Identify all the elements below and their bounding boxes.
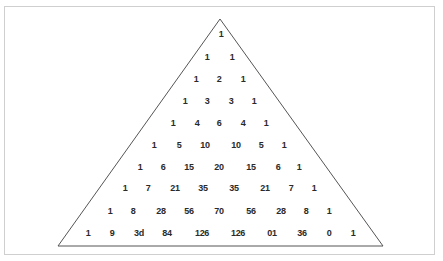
cell-r6-c0: 1 [138,162,143,172]
cell-r5-c3: 10 [231,140,240,150]
cell-r9-c0: 1 [86,228,91,238]
cell-r4-c3: 4 [241,118,246,128]
cell-r8-c2: 28 [156,206,165,216]
cell-r3-c1: 3 [205,96,210,106]
cell-r4-c4: 1 [264,118,269,128]
cell-r7-c2: 21 [170,183,179,193]
cell-r9-c9: 1 [351,228,356,238]
cell-r4-c1: 4 [195,118,200,128]
cell-r7-c4: 35 [229,183,238,193]
cell-r7-c1: 7 [146,183,151,193]
cell-r6-c2: 15 [184,162,193,172]
cell-r9-c6: 01 [267,228,276,238]
cell-r3-c2: 3 [229,96,234,106]
cell-r8-c7: 8 [304,206,309,216]
cell-r8-c5: 56 [246,206,255,216]
cell-r9-c5: 126 [231,228,245,238]
cell-r7-c6: 7 [289,183,294,193]
cell-r6-c4: 15 [246,162,255,172]
cell-r8-c3: 56 [184,206,193,216]
cell-r5-c0: 1 [152,140,157,150]
cell-r1-c1: 1 [230,52,235,62]
cell-r6-c5: 6 [276,162,281,172]
cell-r4-c2: 6 [217,118,222,128]
cell-r9-c3: 84 [162,228,171,238]
cell-r0-c0: 1 [219,29,224,39]
cell-r5-c4: 5 [259,140,264,150]
cell-r9-c1: 9 [110,228,115,238]
triangle-outline [0,0,443,261]
cell-r6-c1: 6 [161,162,166,172]
cell-r9-c7: 36 [297,228,306,238]
cell-r9-c4: 126 [195,228,209,238]
cell-r5-c1: 5 [177,140,182,150]
cell-r8-c0: 1 [108,206,113,216]
cell-r5-c2: 10 [200,140,209,150]
cell-r4-c0: 1 [171,118,176,128]
cell-r8-c8: 1 [327,206,332,216]
cell-r7-c5: 21 [260,183,269,193]
cell-r5-c5: 1 [282,140,287,150]
cell-r6-c3: 20 [214,162,223,172]
cell-r2-c0: 1 [194,74,199,84]
cell-r8-c4: 70 [214,206,223,216]
cell-r8-c6: 28 [276,206,285,216]
cell-r2-c1: 2 [217,74,222,84]
cell-r8-c1: 8 [131,206,136,216]
cell-r7-c0: 1 [123,183,128,193]
cell-r1-c0: 1 [205,52,210,62]
cell-r9-c2: 3d [134,228,144,238]
cell-r7-c3: 35 [198,183,207,193]
cell-r9-c8: 0 [327,228,332,238]
cell-r3-c0: 1 [183,96,188,106]
cell-r7-c7: 1 [312,183,317,193]
cell-r3-c3: 1 [252,96,257,106]
cell-r2-c2: 1 [241,74,246,84]
cell-r6-c6: 1 [297,162,302,172]
